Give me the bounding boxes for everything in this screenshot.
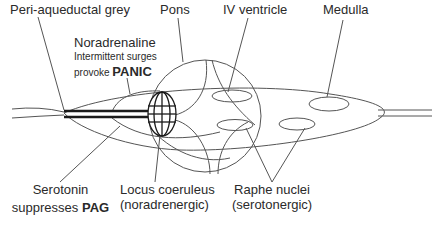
label-locus-coeruleus-group: Locus coeruleus (noradrenergic): [120, 183, 206, 213]
label-noradrenaline-title: Noradrenaline: [74, 36, 157, 51]
brainstem-diagram: Peri-aqueductal grey Pons IV ventricle M…: [0, 0, 439, 225]
label-serotonergic: (serotonergic): [232, 198, 312, 213]
label-provoke: provoke: [74, 67, 112, 78]
leader-medulla: [327, 20, 343, 97]
label-panic: PANIC: [112, 64, 151, 79]
label-suppresses: suppresses: [12, 200, 82, 215]
tract-upper-left: [175, 60, 207, 115]
leader-pons: [178, 18, 183, 62]
leader-raphe-2: [272, 128, 305, 182]
medulla-ellipse: [309, 97, 349, 111]
label-noradrenaline-group: Noradrenaline Intermittent surges provok…: [74, 36, 157, 81]
label-peri-aqueductal-grey: Peri-aqueductal grey: [10, 3, 130, 18]
locus-coeruleus-sphere: [148, 92, 176, 136]
label-noradrenaline-surges: Intermittent surges: [74, 51, 157, 63]
label-serotonin-group: Serotonin suppresses PAG: [8, 183, 113, 216]
leader-serotonin: [60, 126, 120, 182]
leader-raphe-1: [246, 128, 272, 182]
left-fibre-top: [12, 108, 64, 112]
raphe-ellipse-2: [279, 118, 315, 130]
label-pag: PAG: [82, 200, 109, 215]
label-suppresses-pag-line: suppresses PAG: [8, 198, 113, 216]
label-iv-ventricle: IV ventricle: [223, 3, 287, 18]
label-raphe-nuclei-group: Raphe nuclei (serotonergic): [232, 183, 312, 213]
left-fibre-bottom: [12, 115, 64, 118]
leader-iv-ventricle: [228, 18, 248, 92]
label-pons: Pons: [160, 3, 190, 18]
label-locus-coeruleus: Locus coeruleus: [120, 183, 206, 198]
label-serotonin: Serotonin: [8, 183, 113, 198]
leader-pag: [38, 17, 64, 110]
label-noradrenergic: (noradrenergic): [120, 198, 206, 213]
label-raphe-nuclei: Raphe nuclei: [232, 183, 312, 198]
label-medulla: Medulla: [323, 3, 369, 18]
raphe-ellipse-1: [217, 120, 253, 131]
label-noradrenaline-panic-line: provoke PANIC: [74, 62, 157, 80]
